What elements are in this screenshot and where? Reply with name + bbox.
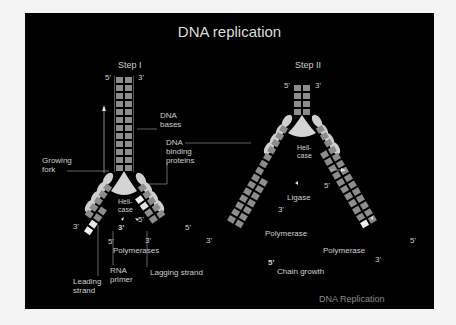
step1-inner-3prime: 3' [118,223,124,232]
growing-fork-label: Growing fork [42,156,72,174]
chain-growth-label: Chain growth [277,267,324,276]
step1-right-5prime: 5' [185,223,191,232]
lagging-strand-label: Lagging strand [150,268,203,277]
step1-left-3prime: 3' [73,222,79,231]
polymerase-label-left: Polymerase [265,229,307,238]
helicase-1 [111,171,137,195]
polymerases-label: Polymerases [113,246,159,255]
rna-primer-label: RNA primer [110,266,133,284]
dna-bases-label: DNA bases [160,111,181,129]
step1-top-5prime: 5' [105,73,111,82]
step2-right-5prime: 5' [410,236,416,245]
ligase-label: Ligase [287,193,311,202]
step2-left-3prime: 3' [206,236,212,245]
step1-right-inner-3prime: 3' [145,236,151,245]
step1-top-3prime: 3' [138,73,144,82]
helicase-label-1: Heli- case [118,198,133,214]
step2-left-5prime: 5' [268,258,274,267]
step1-inner-5prime: 5' [108,237,114,246]
step2-right-inner-5prime: 5' [324,181,330,190]
leading-strand-label: Leading strand [73,277,101,295]
polymerase-label-right: Polymerase [323,246,365,255]
step2-left-inner-3prime: 3' [278,205,284,214]
footer-caption: DNA Replication [319,294,385,304]
dna-binding-proteins-label: DNA binding proteins [166,138,194,165]
dna-replication-graphic [25,13,434,309]
helicase-2 [288,115,316,137]
step2-top-3prime: 3' [315,81,321,90]
step2-top-5prime: 5' [284,81,290,90]
step2-right-inner-3prime: 3' [375,255,381,264]
step2-label: Step II [295,61,321,70]
helicase-label-2: Heli- case [297,144,312,160]
diagram-panel: DNA replication [25,13,434,309]
step1-label: Step I [118,61,142,70]
step1-right-inner-5prime: 5' [138,215,144,224]
